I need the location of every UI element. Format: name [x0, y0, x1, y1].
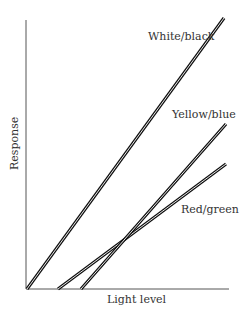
red-green-line	[58, 164, 226, 289]
x-axis-label: Light level	[107, 293, 167, 306]
diagram-canvas: White/black Yellow/blue Red/green Light …	[0, 0, 242, 313]
response-vs-light-diagram: White/black Yellow/blue Red/green Light …	[0, 0, 242, 313]
label-yellow-blue: Yellow/blue	[171, 108, 236, 121]
y-axis-label: Response	[8, 117, 21, 170]
white-black-line	[27, 18, 224, 289]
label-white-black: White/black	[148, 30, 215, 43]
label-red-green: Red/green	[181, 203, 239, 216]
